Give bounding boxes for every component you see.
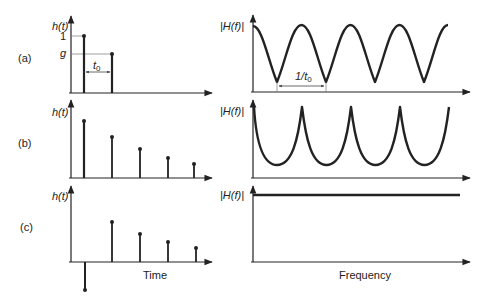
freq-axes-b bbox=[251, 100, 470, 178]
xlabel-frequency: Frequency bbox=[339, 269, 391, 281]
magnitude-curve-b bbox=[254, 107, 449, 165]
panel-label-a: (a) bbox=[18, 52, 31, 64]
tick-label-g: g bbox=[60, 47, 67, 59]
time-ylabel-c: h(t) bbox=[52, 190, 69, 202]
panel-label-c: (c) bbox=[20, 221, 33, 233]
freq-ylabel-b: |H(f)| bbox=[220, 105, 244, 117]
freq-ylabel-c: |H(f)| bbox=[220, 189, 244, 201]
freq-axes-a bbox=[251, 15, 470, 92]
panel-label-b: (b) bbox=[18, 137, 31, 149]
tick-label-one: 1 bbox=[60, 30, 66, 42]
impulse-response-diagram: (a) h(t) 1 g t0 |H(f)| bbox=[0, 0, 491, 308]
interval-label-inv-t0: 1/t0 bbox=[295, 70, 312, 84]
xlabel-time: Time bbox=[143, 269, 167, 281]
panel-c: (c) h(t) Time |H(f)| Frequency bbox=[20, 186, 470, 292]
freq-axes-c bbox=[251, 186, 470, 262]
freq-ylabel-a: |H(f)| bbox=[220, 20, 244, 32]
time-axes-a bbox=[69, 16, 212, 93]
interval-label-t0: t0 bbox=[93, 59, 101, 73]
panel-a: (a) h(t) 1 g t0 |H(f)| bbox=[18, 15, 470, 93]
impulse-stems-c bbox=[83, 220, 198, 292]
impulse-stems-b bbox=[82, 119, 196, 178]
magnitude-curve-a bbox=[253, 25, 448, 82]
panel-b: (b) h(t) |H(f)| bbox=[18, 100, 470, 178]
time-ylabel-b: h(t) bbox=[52, 106, 69, 118]
